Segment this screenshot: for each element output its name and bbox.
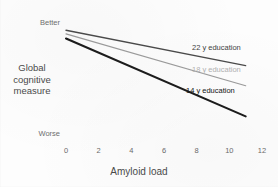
series-label-14y-education: 14 y education: [186, 86, 235, 95]
y-axis-title: Global cognitive measure: [4, 62, 60, 97]
x-tick-label-6: 6: [155, 146, 173, 155]
chart-figure: Better Worse Global cognitive measure 0 …: [0, 0, 278, 187]
y-axis-title-line-1: Global: [4, 62, 60, 74]
y-axis-title-line-3: measure: [4, 85, 60, 97]
x-tick-label-0: 0: [57, 146, 75, 155]
series-label-18y-education: 18 y education: [192, 65, 241, 74]
x-axis-title: Amyloid load: [0, 166, 278, 177]
x-tick-label-12: 12: [253, 146, 271, 155]
y-axis-bottom-label: Worse: [18, 129, 60, 138]
x-tick-label-4: 4: [122, 146, 140, 155]
x-tick-label-8: 8: [188, 146, 206, 155]
x-tick-label-10: 10: [220, 146, 238, 155]
y-axis-top-label: Better: [18, 18, 60, 27]
series-label-22y-education: 22 y education: [192, 43, 241, 52]
x-tick-label-2: 2: [90, 146, 108, 155]
y-axis-title-line-2: cognitive: [4, 74, 60, 86]
